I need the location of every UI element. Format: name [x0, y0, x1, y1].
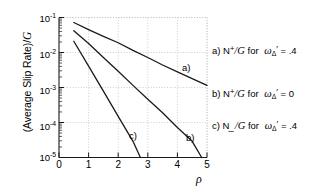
figure: (Average Slip Rate)/G 10-1 10-2 10-3 10-…: [0, 0, 334, 195]
legend-item-b: b) N+/G for ωΔ′ = 0: [212, 88, 294, 100]
legend-omega: ω: [264, 88, 271, 99]
legend-omega: ω: [264, 45, 271, 56]
legend-value: = 0: [281, 88, 294, 99]
legend-subscript: Δ: [272, 125, 277, 132]
legend-value: = .4: [281, 120, 297, 131]
x-tick-label: 1: [79, 160, 99, 170]
curve-tag-b: b): [186, 133, 194, 143]
legend-denominator: G: [237, 88, 245, 99]
legend: a) N+/G for ωΔ′ = .4 b) N+/G for ωΔ′ = 0…: [212, 0, 334, 195]
x-axis-label: ρ: [196, 172, 202, 187]
legend-omega: ω: [265, 120, 272, 131]
legend-value: = .4: [281, 45, 297, 56]
legend-symbol: N: [223, 88, 230, 99]
legend-symbol: N: [223, 45, 230, 56]
legend-for: for: [248, 45, 259, 56]
legend-sign: +: [230, 87, 234, 96]
legend-prime: ′: [276, 87, 278, 97]
x-tick-label: 0: [49, 160, 69, 170]
x-tick-label: 2: [108, 160, 128, 170]
legend-item-a: a) N+/G for ωΔ′ = .4: [212, 45, 297, 57]
legend-denominator: G: [238, 120, 246, 131]
curve-tag-a: a): [182, 63, 190, 73]
legend-for: for: [248, 88, 259, 99]
legend-prefix: c): [212, 120, 220, 131]
x-major-ticks: [59, 153, 207, 158]
legend-sign: +: [230, 44, 234, 53]
legend-item-c: c) N_/G for ωΔ′ = .4: [212, 120, 297, 132]
legend-denominator: G: [237, 45, 245, 56]
legend-prime: ′: [276, 44, 278, 54]
legend-prefix: a): [212, 45, 220, 56]
legend-sign: _: [228, 121, 233, 132]
legend-for: for: [248, 120, 259, 131]
x-tick-label: 3: [138, 160, 158, 170]
legend-prime: ′: [277, 119, 279, 129]
legend-prefix: b): [212, 88, 220, 99]
x-tick-label: 4: [167, 160, 187, 170]
curve-tag-c: c): [129, 131, 137, 141]
